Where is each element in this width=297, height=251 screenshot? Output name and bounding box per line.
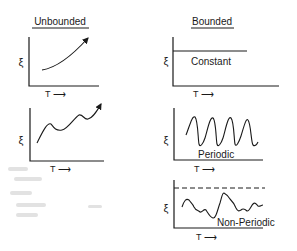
behavior-classification-diagram: Unbounded Bounded ξ T ⟶ ξ T ⟶ ξ Constant…	[0, 0, 297, 251]
axes	[29, 37, 99, 86]
x-axis-label: T ⟶	[45, 89, 66, 99]
curve	[42, 38, 88, 70]
y-axis-label: ξ	[164, 202, 169, 214]
curve-label: Periodic	[198, 149, 234, 160]
heading-unbounded: Unbounded	[34, 16, 86, 27]
x-axis-label: T ⟶	[193, 89, 214, 99]
x-axis-label: T ⟶	[196, 232, 217, 242]
y-axis-label: ξ	[164, 55, 169, 67]
bleed-through-text	[8, 167, 102, 217]
column-bounded: Bounded	[191, 16, 234, 28]
y-axis-label: ξ	[19, 56, 24, 68]
panel-bounded-non-periodic: ξ Non-Periodic T ⟶	[164, 180, 275, 242]
curve	[182, 193, 263, 218]
x-axis-label: T ⟶	[50, 164, 71, 174]
curve	[37, 104, 101, 143]
curve-label: Non-Periodic	[217, 217, 275, 228]
y-axis-label: ξ	[164, 134, 169, 146]
column-unbounded: Unbounded	[32, 16, 89, 28]
panel-unbounded-monotonic: ξ T ⟶	[19, 37, 99, 99]
heading-bounded: Bounded	[192, 16, 232, 27]
curve-label: Constant	[191, 56, 231, 67]
panel-unbounded-oscillating: ξ T ⟶	[19, 104, 104, 174]
y-axis-label: ξ	[19, 134, 24, 146]
curve	[186, 117, 258, 146]
panel-bounded-periodic: ξ Periodic T ⟶	[164, 108, 263, 174]
x-axis-label: T ⟶	[194, 164, 215, 174]
panel-bounded-constant: ξ Constant T ⟶	[164, 37, 279, 99]
